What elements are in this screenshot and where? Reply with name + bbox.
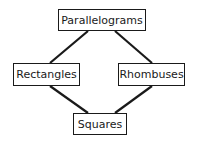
node-parallelograms: Parallelograms — [58, 9, 146, 31]
node-rhombuses: Rhombuses — [118, 63, 185, 86]
node-squares: Squares — [73, 113, 127, 135]
node-label: Parallelograms — [61, 14, 143, 27]
node-rectangles: Rectangles — [13, 63, 80, 86]
edge-parallelograms-rectangles — [50, 31, 88, 63]
node-label: Rectangles — [16, 68, 77, 81]
edge-rectangles-squares — [50, 86, 88, 113]
node-label: Squares — [78, 118, 122, 131]
quadrilateral-hierarchy-diagram: Parallelograms Rectangles Rhombuses Squa… — [0, 0, 202, 142]
node-label: Rhombuses — [119, 68, 183, 81]
edge-parallelograms-rhombuses — [115, 31, 152, 63]
edge-rhombuses-squares — [115, 86, 152, 113]
